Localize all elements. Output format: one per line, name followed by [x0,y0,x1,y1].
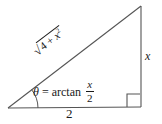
right-angle-square-icon [127,94,140,107]
arctan-function-name: arctan [52,86,81,98]
fraction-numerator: x [86,79,93,91]
triangle-svg [0,0,162,124]
fraction-denominator: 2 [86,92,94,104]
base-length-label: 2 [66,107,73,120]
theta-symbol: θ [33,86,39,98]
fraction-x-over-2: x 2 [86,79,94,104]
height-length-label: x [145,50,150,62]
triangle-base-line [8,107,141,108]
triangle-figure: 2 x √ 4 + x2 θ = arctan x 2 [0,0,162,124]
theta-equation-label: θ = arctan x 2 [33,79,94,104]
equals-sign: = [42,86,49,98]
